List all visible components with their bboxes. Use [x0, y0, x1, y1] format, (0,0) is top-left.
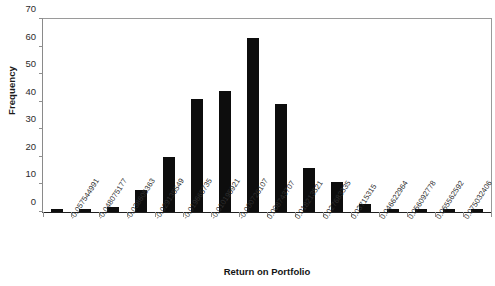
y-tick-label: 70	[25, 3, 43, 14]
y-tick-label: 40	[25, 85, 43, 96]
bar-slot	[43, 19, 71, 212]
x-tick-mark	[491, 212, 492, 217]
y-tick-label: 60	[25, 30, 43, 41]
x-axis-title: Return on Portfolio	[42, 266, 492, 277]
y-tick-label: 0	[31, 196, 43, 207]
y-axis-title: Frequency	[6, 46, 17, 136]
y-tick-label: 50	[25, 58, 43, 69]
y-tick-label: 10	[25, 168, 43, 179]
y-tick-label: 30	[25, 113, 43, 124]
y-tick-label: 20	[25, 140, 43, 151]
x-tick-mark	[43, 212, 44, 217]
bar-slot	[351, 19, 379, 212]
chart-canvas: Frequency 010203040506070 -0.057544991-0…	[0, 0, 495, 286]
